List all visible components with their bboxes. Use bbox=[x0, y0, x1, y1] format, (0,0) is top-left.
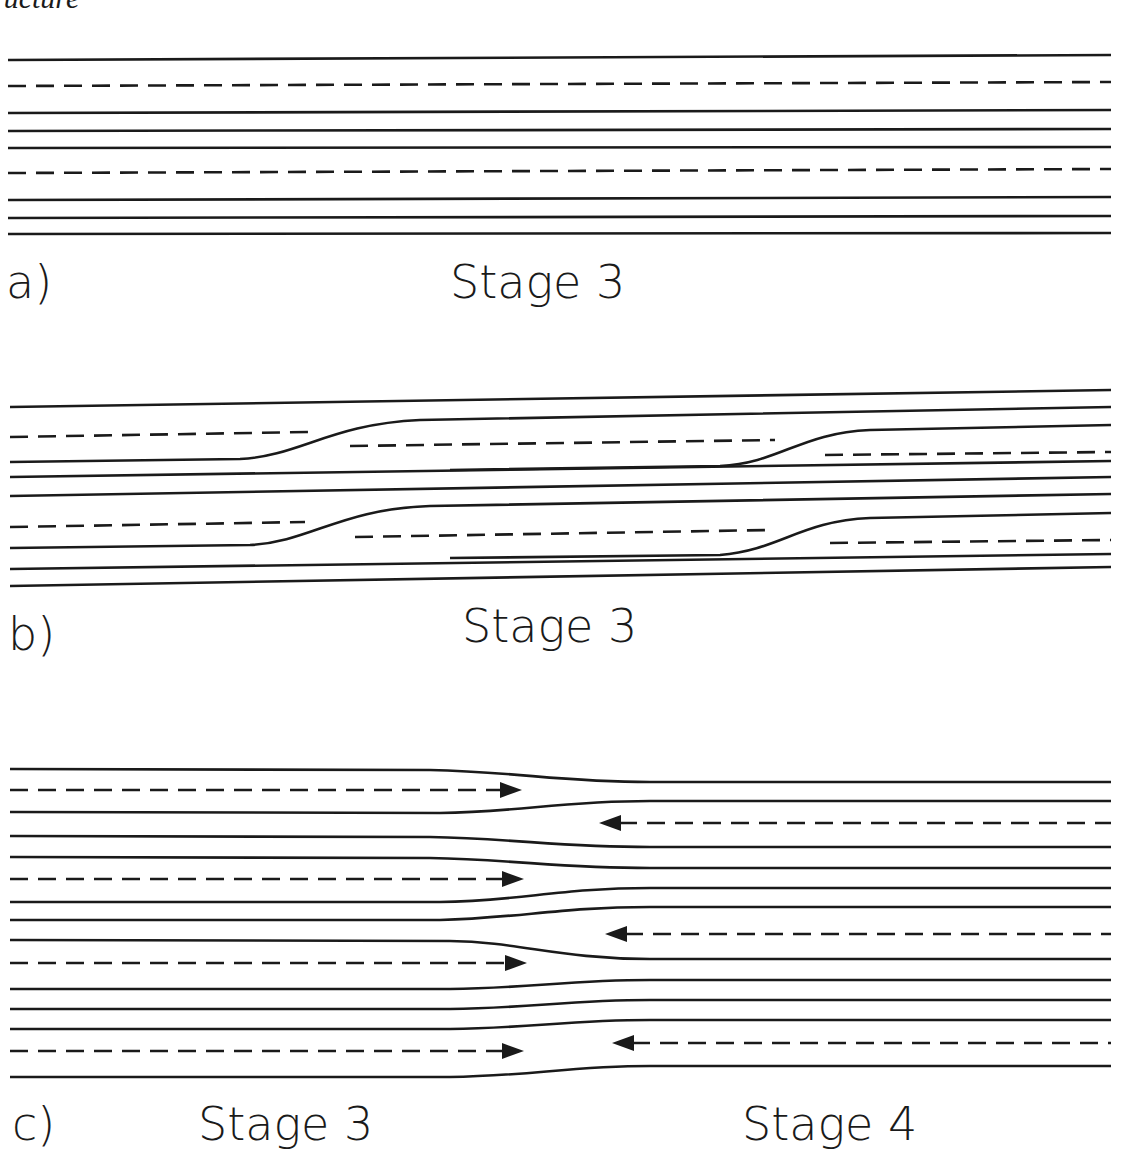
solid-line bbox=[450, 513, 1111, 558]
dashed-line bbox=[355, 530, 770, 537]
panel-c-stage4-label: Stage 4 bbox=[742, 1097, 917, 1150]
solid-line bbox=[10, 477, 1111, 496]
solid-line bbox=[10, 390, 1111, 407]
solid-line bbox=[8, 55, 1111, 60]
panel-c bbox=[10, 769, 1111, 1077]
arrow-right-icon bbox=[500, 782, 522, 798]
solid-line bbox=[10, 1066, 1111, 1077]
arrow-left-icon bbox=[599, 815, 621, 831]
solid-line bbox=[8, 110, 1111, 113]
solid-line bbox=[10, 857, 1111, 868]
panel-c-label: c) bbox=[12, 1097, 55, 1150]
panel-a-stage-label: Stage 3 bbox=[450, 255, 625, 309]
panel-b-stage-label: Stage 3 bbox=[462, 599, 637, 653]
solid-line bbox=[8, 197, 1111, 200]
panel-b-label: b) bbox=[8, 607, 55, 661]
header-partial-text: ructure bbox=[0, 0, 79, 14]
panel-a bbox=[8, 55, 1111, 234]
solid-line bbox=[8, 129, 1111, 131]
arrow-left-icon bbox=[605, 926, 627, 942]
panel-c-stage3-label: Stage 3 bbox=[198, 1097, 373, 1150]
solid-line bbox=[10, 1020, 1111, 1029]
dashed-line bbox=[8, 82, 1111, 86]
arrow-right-icon bbox=[502, 871, 524, 887]
stage-diagram: ructure a) Stage 3 b) Stage 3 c) Stage 3… bbox=[0, 0, 1126, 1150]
dashed-line bbox=[10, 432, 308, 437]
solid-line bbox=[8, 147, 1111, 148]
panel-b bbox=[10, 390, 1111, 586]
dashed-line bbox=[10, 522, 305, 527]
panel-a-label: a) bbox=[6, 255, 52, 309]
solid-line bbox=[10, 907, 1111, 920]
arrow-left-icon bbox=[612, 1035, 634, 1051]
solid-line bbox=[8, 216, 1111, 218]
solid-line bbox=[10, 567, 1111, 586]
solid-line bbox=[10, 888, 1111, 902]
solid-line bbox=[10, 980, 1111, 989]
dashed-line bbox=[350, 440, 775, 446]
dashed-line bbox=[830, 540, 1111, 543]
solid-line bbox=[10, 836, 1111, 847]
solid-line bbox=[10, 1000, 1111, 1009]
solid-line bbox=[8, 233, 1111, 234]
dashed-line bbox=[825, 452, 1111, 455]
solid-line bbox=[10, 801, 1111, 813]
solid-line bbox=[10, 494, 1111, 548]
solid-line bbox=[10, 940, 1111, 959]
dashed-line bbox=[8, 169, 1111, 173]
solid-line bbox=[10, 769, 1111, 782]
arrow-right-icon bbox=[502, 1043, 524, 1059]
arrow-right-icon bbox=[505, 955, 527, 971]
